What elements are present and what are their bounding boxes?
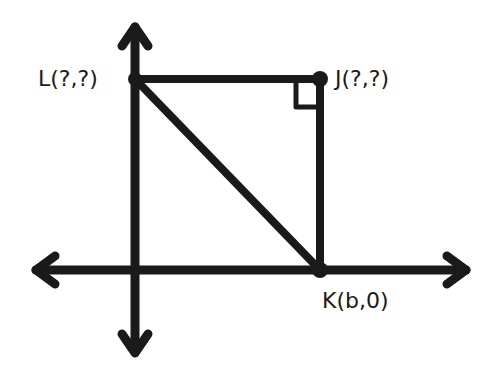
label-J: J(?,?) [335, 68, 389, 90]
label-K: K(b,0) [322, 290, 389, 312]
coordinate-diagram [0, 0, 483, 367]
x-axis [36, 256, 466, 284]
label-L: L(?,?) [38, 68, 98, 90]
point-J [312, 71, 328, 87]
point-K [312, 262, 328, 278]
segment-LK [135, 79, 320, 270]
point-L [128, 72, 142, 86]
